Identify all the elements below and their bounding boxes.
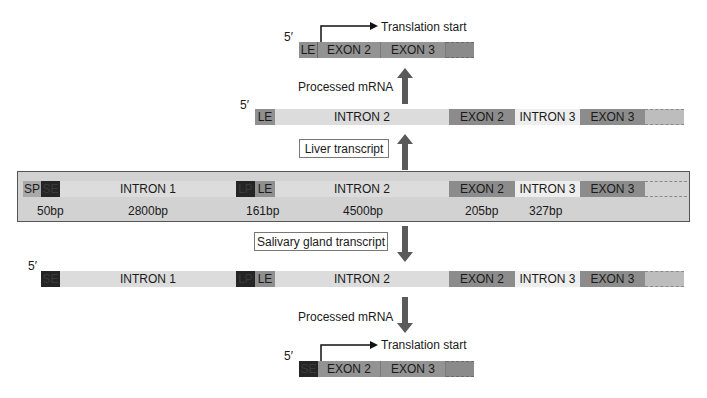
translation-start-arrow-icon bbox=[320, 339, 380, 361]
liver-transcript-bar: LE INTRON 2 EXON 2 INTRON 3 EXON 3 bbox=[255, 109, 684, 125]
size-label-se: 50bp bbox=[37, 204, 64, 218]
segment-le: LE bbox=[299, 42, 318, 58]
segment-se: SE bbox=[299, 361, 318, 377]
segment-intron-1: INTRON 1 bbox=[60, 271, 236, 287]
size-label-intron-1: 2800bp bbox=[128, 204, 168, 218]
translation-start-label-bottom: Translation start bbox=[381, 338, 467, 352]
size-label-exon-2: 205bp bbox=[465, 204, 498, 218]
arrow-down-icon bbox=[397, 226, 413, 262]
segment-intron-2: INTRON 2 bbox=[275, 109, 449, 125]
size-label-intron-3: 327bp bbox=[529, 204, 562, 218]
segment-3prime-tail bbox=[446, 361, 474, 377]
translation-start-label-top: Translation start bbox=[381, 20, 467, 34]
segment-lp: LP bbox=[236, 181, 255, 197]
segment-exon-2: EXON 2 bbox=[449, 181, 515, 197]
segment-se: SE bbox=[41, 181, 60, 197]
segment-3prime-tail bbox=[645, 181, 687, 197]
liver-processed-mrna: LE EXON 2 EXON 3 bbox=[299, 42, 474, 58]
processed-mrna-label-top: Processed mRNA bbox=[298, 80, 393, 94]
segment-intron-3: INTRON 3 bbox=[515, 109, 580, 125]
segment-3prime-tail bbox=[645, 271, 684, 287]
segment-le: LE bbox=[255, 271, 275, 287]
segment-exon-2: EXON 2 bbox=[449, 109, 515, 125]
segment-exon-2: EXON 2 bbox=[318, 42, 381, 58]
five-prime-label: 5′ bbox=[284, 30, 293, 44]
segment-intron-1: INTRON 1 bbox=[60, 181, 236, 197]
arrow-down-icon bbox=[397, 297, 413, 333]
segment-exon-3: EXON 3 bbox=[381, 42, 446, 58]
five-prime-label: 5′ bbox=[284, 349, 293, 363]
segment-le: LE bbox=[255, 109, 275, 125]
segment-3prime-tail bbox=[446, 42, 474, 58]
salivary-gland-transcript-label: Salivary gland transcript bbox=[254, 232, 388, 251]
segment-3prime-tail bbox=[645, 109, 684, 125]
liver-transcript-label: Liver transcript bbox=[299, 139, 389, 158]
salivary-transcript-bar: SE INTRON 1 LP LE INTRON 2 EXON 2 INTRON… bbox=[41, 271, 684, 287]
size-label-intron-2: 4500bp bbox=[343, 204, 383, 218]
five-prime-label: 5′ bbox=[28, 259, 37, 273]
segment-sp: SP bbox=[23, 181, 41, 197]
arrow-up-icon bbox=[397, 68, 413, 104]
segment-lp: LP bbox=[236, 271, 255, 287]
segment-exon-3: EXON 3 bbox=[381, 361, 446, 377]
segment-exon-3: EXON 3 bbox=[580, 109, 645, 125]
genomic-gene-bar: SP SE INTRON 1 LP LE INTRON 2 EXON 2 INT… bbox=[23, 181, 687, 197]
translation-start-arrow-icon bbox=[320, 20, 380, 42]
segment-intron-2: INTRON 2 bbox=[275, 271, 449, 287]
segment-le: LE bbox=[255, 181, 275, 197]
size-label-lp-le: 161bp bbox=[246, 204, 279, 218]
segment-intron-2: INTRON 2 bbox=[275, 181, 449, 197]
segment-intron-3: INTRON 3 bbox=[515, 181, 580, 197]
salivary-processed-mrna: SE EXON 2 EXON 3 bbox=[299, 361, 474, 377]
segment-exon-2: EXON 2 bbox=[318, 361, 381, 377]
five-prime-label: 5′ bbox=[240, 98, 249, 112]
processed-mrna-label-bottom: Processed mRNA bbox=[298, 310, 393, 324]
segment-exon-3: EXON 3 bbox=[580, 271, 645, 287]
segment-se: SE bbox=[41, 271, 60, 287]
segment-exon-2: EXON 2 bbox=[449, 271, 515, 287]
arrow-up-icon bbox=[397, 134, 413, 170]
segment-exon-3: EXON 3 bbox=[580, 181, 645, 197]
segment-intron-3: INTRON 3 bbox=[515, 271, 580, 287]
